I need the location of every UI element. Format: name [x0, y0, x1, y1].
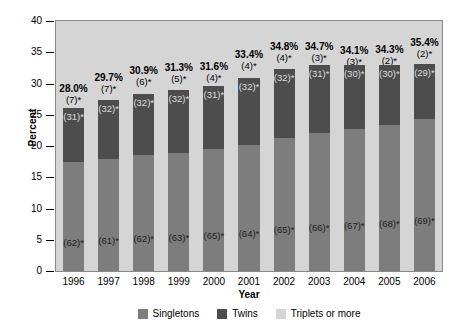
bar-stack: (3)*34.1%(30)*(67)* — [344, 58, 365, 271]
legend-item[interactable]: Singletons — [138, 308, 200, 319]
bar-segment-singletons[interactable]: (65)* — [203, 149, 224, 272]
bar-segment-label-singletons: (61)* — [98, 236, 119, 246]
legend-item-label: Twins — [232, 308, 258, 319]
bar-segment-label-twins: (30)* — [379, 69, 400, 79]
y-axis-tick-label: 30 — [0, 79, 42, 89]
x-axis-tick-label: 2005 — [372, 276, 407, 287]
bar-segment-triplets[interactable]: (3)*34.1% — [344, 58, 365, 66]
bar-segment-label-triplets: (7)* — [57, 95, 90, 105]
bar-total-label: 34.7% — [300, 41, 339, 52]
y-axis-tick — [46, 240, 54, 241]
legend-item[interactable]: Triplets or more — [276, 308, 361, 319]
bar-segment-twins[interactable]: (32)* — [98, 100, 119, 159]
x-axis-tick-label: 2004 — [337, 276, 372, 287]
bar-segment-triplets[interactable]: (7)*29.7% — [98, 85, 119, 99]
bar-segment-label-triplets: (5)* — [162, 74, 195, 84]
bar-group[interactable]: (4)*34.8%(32)*(65)* — [274, 21, 295, 271]
bar-segment-triplets[interactable]: (2)*35.4% — [414, 50, 435, 64]
bar-total-label: 31.3% — [159, 62, 198, 73]
bar-stack: (7)*28.0%(31)*(62)* — [63, 96, 84, 271]
y-axis-tick-label: 15 — [0, 172, 42, 182]
bar-segment-label-twins: (32)* — [168, 94, 189, 104]
bar-segment-singletons[interactable]: (61)* — [98, 159, 119, 271]
x-axis-tick-label: 2003 — [302, 276, 337, 287]
bar-segment-label-triplets: (4)* — [197, 73, 230, 83]
bar-segment-label-twins: (30)* — [344, 69, 365, 79]
bar-segment-singletons[interactable]: (69)* — [414, 119, 435, 272]
bar-segment-twins[interactable]: (32)* — [238, 78, 259, 145]
bar-stack: (4)*34.8%(32)*(65)* — [274, 54, 295, 272]
bar-segment-twins[interactable]: (31)* — [63, 108, 84, 162]
bar-segment-triplets[interactable]: (3)*34.7% — [309, 54, 330, 65]
x-axis-tick-label: 1996 — [56, 276, 91, 287]
bar-segment-label-twins: (31)* — [203, 90, 224, 100]
bar-group[interactable]: (6)*30.9%(32)*(62)* — [133, 21, 154, 271]
bar-segment-twins[interactable]: (29)* — [414, 64, 435, 118]
y-axis-tick — [46, 115, 54, 116]
bar-segment-triplets[interactable]: (2)*34.3% — [379, 57, 400, 65]
bar-group[interactable]: (2)*34.3%(30)*(68)* — [379, 21, 400, 271]
bar-segment-triplets[interactable]: (5)*31.3% — [168, 75, 189, 90]
x-axis-tick-label: 1997 — [91, 276, 126, 287]
bar-total-label: 34.8% — [265, 41, 304, 52]
y-axis-tick-label: 0 — [0, 266, 42, 276]
bar-group[interactable]: (5)*31.3%(32)*(63)* — [168, 21, 189, 271]
bar-segment-singletons[interactable]: (64)* — [238, 145, 259, 271]
bar-segment-label-singletons: (62)* — [133, 234, 154, 244]
bar-stack: (4)*33.4%(32)*(64)* — [238, 62, 259, 271]
x-axis-tick-label: 1999 — [161, 276, 196, 287]
bar-segment-twins[interactable]: (31)* — [309, 65, 330, 133]
bar-segment-triplets[interactable]: (4)*31.6% — [203, 74, 224, 87]
bar-total-label: 30.9% — [124, 65, 163, 76]
bar-segment-label-singletons: (62)* — [63, 238, 84, 248]
bar-group[interactable]: (7)*29.7%(32)*(61)* — [98, 21, 119, 271]
y-axis-tick — [46, 209, 54, 210]
bar-total-label: 35.4% — [405, 37, 444, 48]
x-axis-tick-label: 2000 — [196, 276, 231, 287]
bar-segment-twins[interactable]: (32)* — [133, 94, 154, 156]
bar-segment-triplets[interactable]: (4)*33.4% — [238, 62, 259, 78]
legend-item[interactable]: Twins — [217, 308, 258, 319]
bar-group[interactable]: (7)*28.0%(31)*(62)* — [63, 21, 84, 271]
bar-segment-triplets[interactable]: (7)*28.0% — [63, 96, 84, 108]
bar-stack: (3)*34.7%(31)*(66)* — [309, 54, 330, 271]
bar-segment-twins[interactable]: (31)* — [203, 86, 224, 149]
bar-segment-singletons[interactable]: (67)* — [344, 129, 365, 271]
bar-group[interactable]: (3)*34.1%(30)*(67)* — [344, 21, 365, 271]
x-axis-title: Year — [55, 289, 443, 300]
bar-group[interactable]: (4)*31.6%(31)*(65)* — [203, 21, 224, 271]
bar-segment-twins[interactable]: (30)* — [379, 65, 400, 126]
bar-segment-singletons[interactable]: (66)* — [309, 133, 330, 271]
bar-segment-singletons[interactable]: (68)* — [379, 125, 400, 271]
y-axis-tick-label: 40 — [0, 16, 42, 26]
bar-segment-label-twins: (32)* — [98, 104, 119, 114]
y-axis-tick-label: 25 — [0, 110, 42, 120]
y-axis-tick — [46, 84, 54, 85]
legend-swatch-icon — [276, 309, 286, 319]
bar-segment-twins[interactable]: (30)* — [344, 65, 365, 129]
y-axis-tick-label: 10 — [0, 204, 42, 214]
legend-swatch-icon — [138, 309, 148, 319]
bar-segment-label-singletons: (65)* — [274, 225, 295, 235]
bar-segment-label-triplets: (4)* — [268, 53, 301, 63]
bar-segment-label-twins: (32)* — [238, 82, 259, 92]
y-axis-tick — [46, 177, 54, 178]
bar-segment-label-singletons: (66)* — [309, 223, 330, 233]
bar-group[interactable]: (2)*35.4%(29)*(69)* — [414, 21, 435, 271]
bar-segment-twins[interactable]: (32)* — [274, 69, 295, 138]
bar-segment-label-triplets: (4)* — [232, 61, 265, 71]
bar-segment-singletons[interactable]: (65)* — [274, 138, 295, 271]
bar-stack: (2)*34.3%(30)*(68)* — [379, 57, 400, 271]
bar-total-label: 29.7% — [89, 72, 128, 83]
bar-segment-singletons[interactable]: (62)* — [63, 162, 84, 271]
bar-stack: (2)*35.4%(29)*(69)* — [414, 50, 435, 271]
bar-group[interactable]: (4)*33.4%(32)*(64)* — [238, 21, 259, 271]
bar-segment-triplets[interactable]: (4)*34.8% — [274, 54, 295, 69]
bar-segment-triplets[interactable]: (6)*30.9% — [133, 78, 154, 94]
bar-segment-singletons[interactable]: (62)* — [133, 155, 154, 271]
bar-total-label: 34.3% — [370, 44, 409, 55]
bar-segment-singletons[interactable]: (63)* — [168, 153, 189, 271]
legend-item-label: Singletons — [153, 308, 200, 319]
bar-group[interactable]: (3)*34.7%(31)*(66)* — [309, 21, 330, 271]
bar-segment-twins[interactable]: (32)* — [168, 90, 189, 153]
